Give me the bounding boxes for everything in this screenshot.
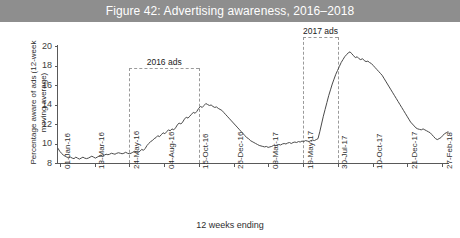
awareness-line-series (58, 52, 448, 159)
figure-container: Figure 42: Advertising awareness, 2016–2… (0, 0, 460, 238)
chart-plot-svg (0, 0, 460, 238)
